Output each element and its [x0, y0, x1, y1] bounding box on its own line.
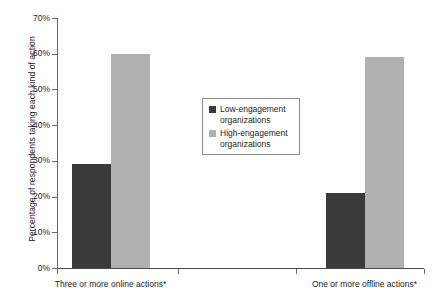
y-axis-tick-mark — [52, 161, 57, 162]
x-axis-tick-mark — [57, 269, 58, 274]
y-axis-tick-mark — [52, 125, 57, 126]
legend-label-high-engagement-line1: High-engagement — [220, 128, 288, 138]
legend-label-low-engagement: Low-engagementorganizations — [220, 104, 286, 125]
y-axis-tick-label: 0% — [20, 264, 50, 273]
y-axis-tick-labels: 70%60%50%40%30%20%10%0% — [18, 0, 50, 300]
y-axis-tick-mark — [52, 18, 57, 19]
chart-figure: Percentage of respondents taking each ki… — [0, 0, 434, 300]
y-axis-tick-label: 50% — [20, 85, 50, 94]
legend-label-high-engagement: High-engagementorganizations — [220, 128, 288, 149]
legend-entry-high-engagement: High-engagementorganizations — [209, 128, 294, 149]
y-axis-tick-label: 20% — [20, 192, 50, 201]
x-axis-category-label: One or more offline actions* — [312, 279, 417, 289]
legend: Low-engagementorganizations High-engagem… — [202, 98, 300, 155]
legend-label-low-engagement-line1: Low-engagement — [220, 104, 286, 114]
legend-swatch-low-engagement — [209, 106, 216, 113]
legend-entry-low-engagement: Low-engagementorganizations — [209, 104, 294, 125]
y-axis-tick-label: 70% — [20, 14, 50, 23]
x-axis-line — [57, 268, 424, 269]
y-axis-tick-label: 30% — [20, 156, 50, 165]
y-axis-tick-mark — [52, 89, 57, 90]
y-axis-tick-label: 10% — [20, 228, 50, 237]
bar — [111, 54, 150, 268]
legend-swatch-high-engagement — [209, 130, 216, 137]
legend-label-high-engagement-line2: organizations — [220, 139, 271, 149]
x-axis-tick-mark — [178, 269, 179, 274]
y-axis-tick-mark — [52, 54, 57, 55]
bar — [72, 164, 111, 268]
y-axis-tick-label: 60% — [20, 49, 50, 58]
x-axis-tick-mark — [424, 269, 425, 274]
bar — [326, 193, 365, 268]
y-axis-tick-mark — [52, 232, 57, 233]
legend-label-low-engagement-line2: organizations — [220, 115, 271, 125]
x-axis-tick-mark — [296, 269, 297, 274]
x-axis-category-label: Three or more online actions* — [55, 279, 167, 289]
y-axis-tick-label: 40% — [20, 121, 50, 130]
bar — [365, 57, 404, 268]
y-axis-tick-mark — [52, 197, 57, 198]
